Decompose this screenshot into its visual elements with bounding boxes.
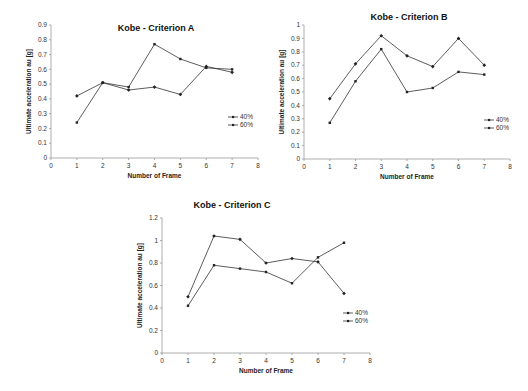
x-tick-label: 8: [368, 357, 372, 364]
x-tick-label: 4: [405, 163, 409, 170]
x-tick-label: 8: [256, 162, 260, 169]
x-tick-label: 5: [179, 162, 183, 169]
y-tick-label: 0.7: [291, 61, 300, 68]
chart-title: Kobe - Criterion B: [370, 12, 448, 22]
y-tick-label: 0.3: [291, 115, 300, 122]
y-tick-label: 0.5: [291, 88, 300, 95]
x-tick-label: 1: [328, 163, 332, 170]
x-tick-label: 0: [49, 162, 53, 169]
x-tick-label: 7: [482, 163, 486, 170]
data-point: [230, 70, 234, 74]
y-tick-label: 0.2: [149, 327, 158, 334]
y-tick-label: 1: [154, 237, 158, 244]
data-point: [329, 122, 331, 124]
y-tick-label: 0.8: [38, 36, 47, 43]
y-axis-label: Ultimate acceleration au [g]: [278, 50, 286, 135]
x-tick-label: 6: [457, 163, 461, 170]
y-tick-label: 0.5: [38, 80, 47, 87]
x-axis-label: Number of Frame: [239, 367, 293, 374]
x-tick-label: 2: [354, 163, 358, 170]
data-point: [179, 58, 181, 60]
x-tick-label: 5: [290, 357, 294, 364]
data-point: [265, 271, 267, 273]
x-axis-label: Number of Frame: [128, 172, 182, 179]
x-tick-label: 0: [302, 163, 306, 170]
data-point: [432, 87, 434, 89]
y-tick-label: 0: [154, 349, 158, 356]
chart-c: 00.20.40.60.811.2012345678Kobe - Criteri…: [136, 200, 372, 374]
data-point: [380, 48, 382, 50]
series-line: [77, 66, 232, 96]
y-tick-label: 0.7: [38, 51, 47, 58]
data-point: [239, 267, 241, 269]
x-tick-label: 6: [204, 162, 208, 169]
data-point: [102, 81, 104, 83]
legend-label: 60%: [240, 121, 253, 128]
y-tick-label: 0.1: [38, 139, 47, 146]
y-tick-label: 0.9: [38, 21, 47, 28]
data-point: [187, 305, 189, 307]
data-point: [127, 88, 131, 92]
x-tick-label: 1: [75, 162, 79, 169]
y-tick-label: 0.4: [149, 304, 158, 311]
y-tick-label: 0.1: [291, 142, 300, 149]
data-point: [290, 257, 294, 261]
data-point: [317, 256, 319, 258]
legend-label: 40%: [496, 116, 509, 123]
charts-canvas: 00.10.20.30.40.50.60.70.80.9012345678Kob…: [0, 0, 528, 391]
series-line: [77, 44, 232, 122]
data-point: [153, 43, 155, 45]
y-tick-label: 0: [296, 155, 300, 162]
legend-label: 40%: [240, 113, 253, 120]
data-point: [76, 121, 78, 123]
x-axis-label: Number of Frame: [380, 173, 434, 180]
x-tick-label: 3: [379, 163, 383, 170]
y-axis-label: Ultimate acceleration au [g]: [25, 49, 33, 134]
data-point: [127, 86, 129, 88]
y-tick-label: 0.2: [38, 125, 47, 132]
x-tick-label: 3: [127, 162, 131, 169]
series-line: [330, 49, 485, 123]
x-tick-label: 4: [264, 357, 268, 364]
data-point: [291, 282, 293, 284]
data-point: [406, 91, 408, 93]
data-point: [231, 68, 233, 70]
legend-label: 60%: [496, 124, 509, 131]
y-axis-label: Ultimate acceleration au [g]: [136, 243, 144, 328]
x-tick-label: 2: [212, 357, 216, 364]
y-tick-label: 0.6: [291, 75, 300, 82]
y-tick-label: 0: [43, 154, 47, 161]
data-point: [205, 67, 207, 69]
x-tick-label: 4: [153, 162, 157, 169]
y-tick-label: 0.3: [38, 110, 47, 117]
x-tick-label: 3: [238, 357, 242, 364]
data-point: [457, 71, 459, 73]
y-tick-label: 0.9: [291, 35, 300, 42]
data-point: [343, 242, 345, 244]
data-point: [153, 85, 157, 89]
x-tick-label: 1: [186, 357, 190, 364]
data-point: [186, 295, 190, 299]
y-tick-label: 0.4: [291, 102, 300, 109]
x-tick-label: 6: [316, 357, 320, 364]
chart-title: Kobe - Criterion A: [118, 23, 195, 33]
data-point: [354, 80, 356, 82]
legend-label: 40%: [355, 309, 368, 316]
x-tick-label: 8: [508, 163, 512, 170]
y-tick-label: 1: [296, 21, 300, 28]
x-tick-label: 7: [342, 357, 346, 364]
y-tick-label: 0.2: [291, 128, 300, 135]
series-line: [188, 236, 344, 297]
data-point: [75, 94, 79, 98]
y-tick-label: 0.6: [38, 66, 47, 73]
x-tick-label: 5: [431, 163, 435, 170]
legend-label: 60%: [355, 317, 368, 324]
y-tick-label: 0.4: [38, 95, 47, 102]
data-point: [213, 264, 215, 266]
series-line: [188, 243, 344, 306]
data-point: [212, 234, 216, 238]
x-tick-label: 2: [101, 162, 105, 169]
chart-b: 00.10.20.30.40.50.60.70.80.91012345678Ko…: [278, 12, 512, 180]
data-point: [483, 73, 485, 75]
y-tick-label: 0.8: [291, 48, 300, 55]
